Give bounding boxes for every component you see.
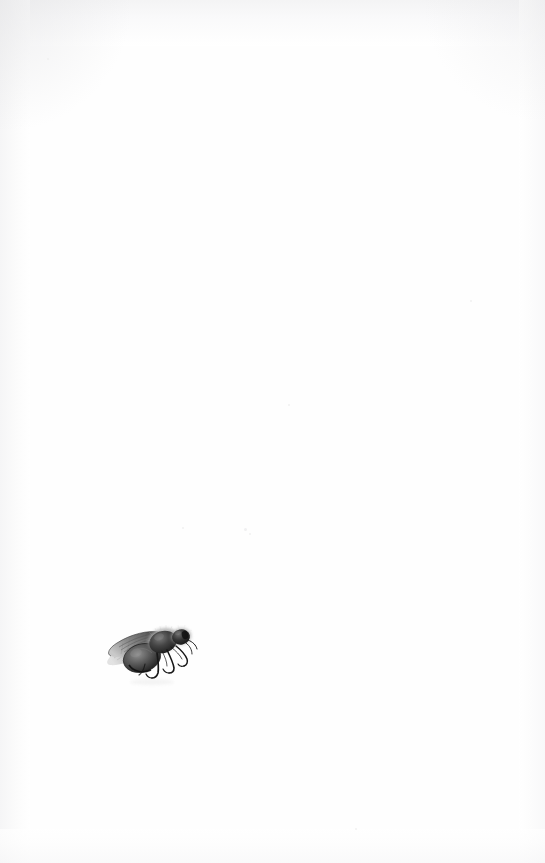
paper-speck [355,828,357,830]
scanned-page [0,0,545,863]
paper-speck [470,300,472,302]
page-corner-shadow-top-left [0,0,130,130]
page-edge-shading-bottom [0,829,545,863]
page-corner-shadow-top-right [425,0,545,120]
illustration-shadow [130,679,174,685]
bee-illustration [100,612,204,694]
paper-speck [288,404,290,406]
page-edge-shading-right [519,0,545,863]
paper-speck [47,58,49,60]
paper-speck [182,527,184,529]
paper-speck [244,528,247,531]
bee-illustration-graphic [100,612,204,694]
paper-speck [249,533,251,535]
